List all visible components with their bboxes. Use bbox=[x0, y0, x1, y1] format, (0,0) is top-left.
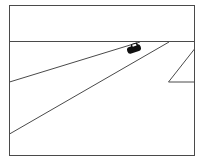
road-scene bbox=[0, 0, 200, 164]
